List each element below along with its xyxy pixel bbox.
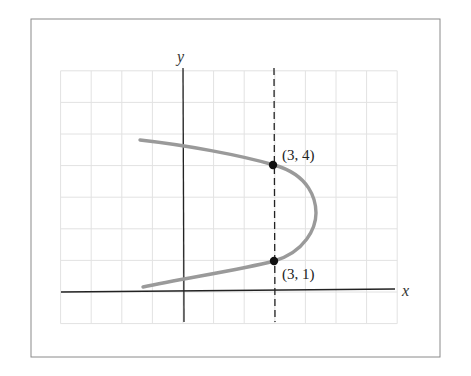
label-point-3-1: (3, 1) bbox=[282, 266, 315, 283]
parabola-graph: (3, 4) (3, 1) y x bbox=[0, 0, 471, 376]
label-point-3-4: (3, 4) bbox=[282, 147, 315, 164]
x-axis-label: x bbox=[401, 282, 409, 299]
point-3-1 bbox=[270, 257, 278, 265]
figure-frame bbox=[31, 19, 440, 357]
point-3-4 bbox=[269, 161, 277, 169]
grid bbox=[61, 71, 398, 324]
y-axis-label: y bbox=[175, 48, 185, 66]
